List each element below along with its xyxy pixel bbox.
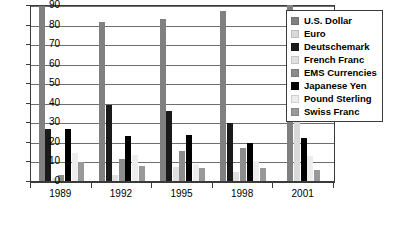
x-axis-tick-label: 2001 <box>268 188 338 199</box>
legend-item-label: Pound Sterling <box>304 93 372 104</box>
legend-item-label: French Franc <box>304 54 364 65</box>
x-axis-tick-mark <box>333 183 334 188</box>
bar <box>307 156 313 182</box>
x-axis-tick-mark <box>212 183 213 188</box>
x-axis-line <box>31 181 334 182</box>
y-axis-tick-mark <box>26 181 30 182</box>
legend-swatch-icon <box>291 17 299 25</box>
bar-group <box>152 6 213 182</box>
bar <box>125 136 131 182</box>
y-axis-tick-label: 60 <box>32 59 60 69</box>
legend-item-label: Deutschemark <box>304 41 369 52</box>
bar <box>240 148 246 182</box>
bar <box>186 135 192 182</box>
x-axis-tick-mark <box>91 183 92 188</box>
y-axis-tick-mark <box>26 142 30 143</box>
legend-item-label: EMS Currencies <box>304 67 377 78</box>
bar <box>106 105 112 182</box>
legend-item[interactable]: Pound Sterling <box>291 92 377 105</box>
y-axis-tick-mark <box>26 83 30 84</box>
x-axis-tick-label: 1995 <box>147 188 217 199</box>
y-axis-tick-mark <box>26 25 30 26</box>
legend-item-label: Euro <box>304 28 326 39</box>
bar <box>220 11 226 182</box>
x-axis-tick-label: 1992 <box>86 188 156 199</box>
x-axis-tick-label: 1998 <box>207 188 277 199</box>
y-axis-tick-label: 40 <box>32 98 60 108</box>
legend-swatch-icon <box>291 108 299 116</box>
legend-item[interactable]: EMS Currencies <box>291 66 377 79</box>
bar <box>179 151 185 182</box>
bar <box>260 168 266 182</box>
y-axis-tick-mark <box>26 161 30 162</box>
bar-group <box>92 6 153 182</box>
legend-item-label: Japanese Yen <box>304 80 367 91</box>
legend-item-label: U.S. Dollar <box>304 15 352 26</box>
bar <box>160 19 166 182</box>
bar <box>199 168 205 182</box>
bar <box>78 162 84 182</box>
bar <box>72 153 78 182</box>
bar <box>166 111 172 182</box>
bar <box>119 159 125 182</box>
y-axis-tick-mark <box>26 103 30 104</box>
x-axis-tick-mark <box>30 183 31 188</box>
y-axis-tick-label: 80 <box>32 20 60 30</box>
bar <box>65 129 71 182</box>
legend-swatch-icon <box>291 43 299 51</box>
bar <box>132 155 138 182</box>
bar <box>253 161 259 183</box>
x-axis-tick-mark <box>151 183 152 188</box>
y-axis-tick-label: 90 <box>32 0 60 10</box>
legend-item-label: Swiss Franc <box>304 106 359 117</box>
legend-swatch-icon <box>291 56 299 64</box>
y-axis-tick-mark <box>26 122 30 123</box>
y-axis-tick-label: 0 <box>32 176 60 186</box>
x-axis-tick-label: 1989 <box>25 188 95 199</box>
bar <box>139 166 145 182</box>
y-axis-tick-mark <box>26 5 30 6</box>
y-axis-tick-label: 30 <box>32 117 60 127</box>
legend-item[interactable]: French Franc <box>291 53 377 66</box>
legend-swatch-icon <box>291 95 299 103</box>
bar <box>247 143 253 183</box>
bar <box>99 22 105 182</box>
y-axis-tick-label: 50 <box>32 78 60 88</box>
bar-group <box>213 6 274 182</box>
x-axis-tick-mark <box>272 183 273 188</box>
legend-item[interactable]: Euro <box>291 27 377 40</box>
bar <box>193 164 199 182</box>
legend-item[interactable]: Japanese Yen <box>291 79 377 92</box>
legend-swatch-icon <box>291 30 299 38</box>
bar <box>301 138 307 182</box>
y-axis-tick-mark <box>26 64 30 65</box>
y-axis-tick-label: 20 <box>32 137 60 147</box>
legend-swatch-icon <box>291 69 299 77</box>
bar-chart: 0102030405060708090 19891992199519982001… <box>0 0 396 246</box>
chart-legend: U.S. DollarEuroDeutschemarkFrench FrancE… <box>286 10 383 122</box>
legend-item[interactable]: Swiss Franc <box>291 105 377 118</box>
legend-swatch-icon <box>291 82 299 90</box>
y-axis-tick-label: 10 <box>32 156 60 166</box>
bar <box>173 167 179 182</box>
legend-item[interactable]: Deutschemark <box>291 40 377 53</box>
y-axis-tick-label: 70 <box>32 39 60 49</box>
legend-item[interactable]: U.S. Dollar <box>291 14 377 27</box>
y-axis-tick-mark <box>26 44 30 45</box>
bar <box>227 123 233 182</box>
